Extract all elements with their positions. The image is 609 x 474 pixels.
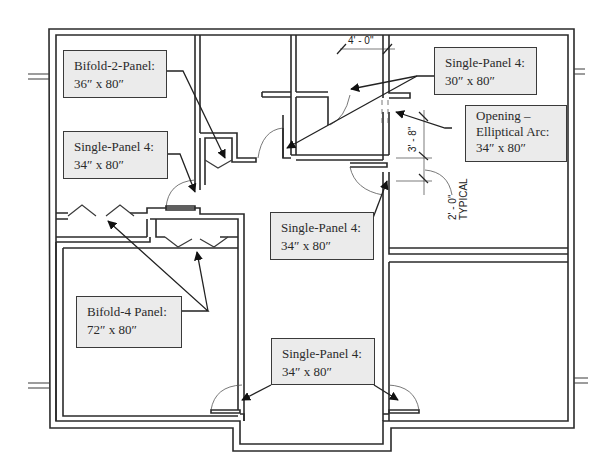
callout-line: 36″ x 80″ <box>74 75 158 93</box>
callout-line: Opening – <box>476 108 558 124</box>
callout-single-panel-top-right: Single-Panel 4: 30″ x 80″ <box>434 47 537 95</box>
callout-line: 34″ x 80″ <box>282 363 366 381</box>
callout-line: Bifold-4 Panel: <box>87 303 173 321</box>
callout-line: Bifold-2-Panel: <box>74 57 158 75</box>
callout-line: 34″ x 80″ <box>476 140 558 156</box>
callout-line: Single-Panel 4: <box>445 54 528 72</box>
callout-line: Single-Panel 4: <box>281 219 365 237</box>
callout-line: Elliptical Arc: <box>476 124 558 140</box>
callout-line: Single-Panel 4: <box>74 138 159 156</box>
callout-bifold-4-panel: Bifold-4 Panel: 72″ x 80″ <box>76 296 182 348</box>
callout-line: 34″ x 80″ <box>74 156 159 174</box>
dimension-4ft: 4' - 0" <box>348 35 374 46</box>
callout-single-panel-left: Single-Panel 4: 34″ x 80″ <box>63 131 168 179</box>
dimension-typical-label: TYPICAL <box>458 178 469 220</box>
callout-single-panel-center: Single-Panel 4: 34″ x 80″ <box>270 212 374 260</box>
callout-line: Single-Panel 4: <box>282 345 366 363</box>
callout-line: 72″ x 80″ <box>87 321 173 339</box>
dimension-3ft8: 3' - 8" <box>407 126 418 152</box>
callout-bifold-2-panel: Bifold-2-Panel: 36″ x 80″ <box>63 50 167 98</box>
callout-line: 34″ x 80″ <box>281 237 365 255</box>
callout-single-panel-bottom: Single-Panel 4: 34″ x 80″ <box>271 338 375 385</box>
callout-opening-elliptical-arc: Opening – Elliptical Arc: 34″ x 80″ <box>465 105 567 162</box>
dimension-2ft-typical: 2' - 0" <box>447 194 458 220</box>
callout-line: 30″ x 80″ <box>445 72 528 90</box>
